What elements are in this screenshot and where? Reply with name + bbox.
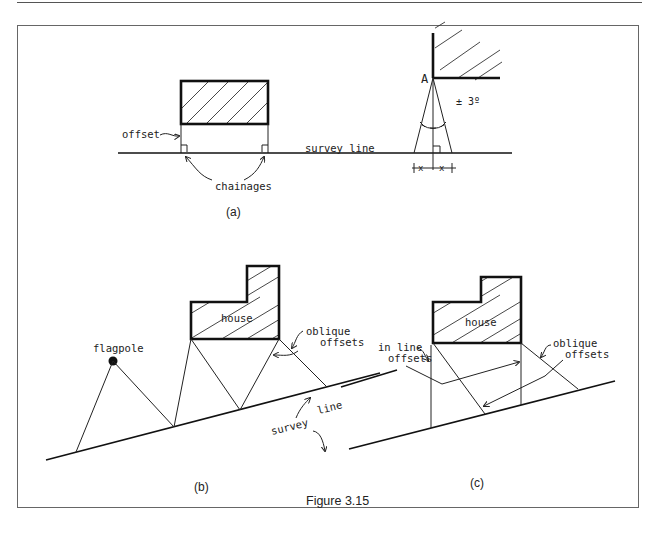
x-left-label: x xyxy=(418,163,424,173)
flagpole-label: flagpole xyxy=(93,342,144,354)
x-right-label: x xyxy=(439,163,445,173)
chainages-label: chainages xyxy=(215,180,272,192)
house-c-label: house xyxy=(465,316,497,328)
panel-b: house flagpole oblique offsets survey li… xyxy=(46,255,380,494)
panel-a: offset survey line chainages (a) A ± 3º xyxy=(118,22,512,219)
wall-corner xyxy=(432,22,505,80)
panel-c-label: (c) xyxy=(470,476,484,490)
survey-b-label-2: line xyxy=(316,398,343,416)
panel-a-label: (a) xyxy=(226,205,241,219)
panel-c: house in line offsets oblique offsets (c… xyxy=(341,255,615,490)
house-b xyxy=(180,255,290,358)
offset-label: offset xyxy=(122,128,160,140)
survey-line-label: survey line xyxy=(305,142,375,154)
survey-b-label-1: survey xyxy=(270,416,310,437)
figure-diagram: offset survey line chainages (a) A ± 3º xyxy=(0,0,659,537)
oblique-c-label-2: offsets xyxy=(565,348,609,360)
house-b-label: house xyxy=(221,312,253,324)
figure-caption: Figure 3.15 xyxy=(306,494,369,508)
angle-label: ± 3º xyxy=(456,96,480,107)
survey-line-b-continued xyxy=(341,370,397,387)
inline-c-label-2: offsets xyxy=(388,352,432,364)
survey-line-b xyxy=(46,373,380,460)
building-a xyxy=(150,80,310,140)
point-a-label: A xyxy=(421,72,429,86)
panel-b-label: (b) xyxy=(194,480,209,494)
oblique-b-label-2: offsets xyxy=(320,336,364,348)
house-c xyxy=(425,255,525,352)
survey-line-c xyxy=(349,381,615,449)
